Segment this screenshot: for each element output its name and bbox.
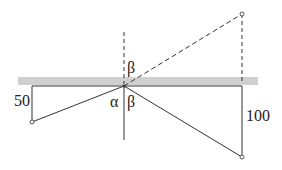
diagram-canvas <box>0 0 282 170</box>
beta-bottom-label: β <box>127 94 135 110</box>
alpha-label: α <box>110 94 118 110</box>
left-point <box>30 120 34 124</box>
right-point <box>240 155 244 159</box>
left-height-label: 50 <box>14 93 30 109</box>
vertex-point <box>123 85 126 88</box>
virtual-point <box>240 12 244 16</box>
surface-band <box>18 77 258 85</box>
beta-top-label: β <box>127 60 135 76</box>
right-height-label: 100 <box>246 108 270 124</box>
virtual-ray-dashed <box>124 14 242 86</box>
right-ray <box>124 86 242 157</box>
